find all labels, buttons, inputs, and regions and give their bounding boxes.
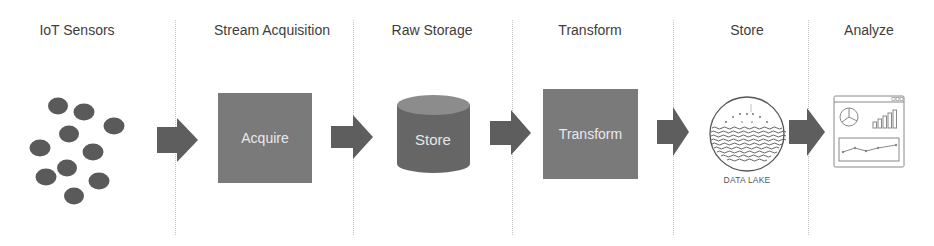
sensor-dots-icon bbox=[30, 98, 125, 205]
arrow-right-icon bbox=[157, 118, 198, 162]
acquire-label: Acquire bbox=[241, 130, 288, 146]
arrow-right-icon bbox=[789, 108, 825, 156]
data-lake-label: DATA LAKE bbox=[724, 175, 771, 185]
data-lake-icon bbox=[710, 97, 786, 171]
raw-store-label: Store bbox=[415, 131, 451, 148]
transform-node: Transform bbox=[543, 89, 638, 179]
arrow-right-icon bbox=[657, 107, 689, 156]
acquire-node: Acquire bbox=[218, 93, 312, 183]
transform-label: Transform bbox=[559, 126, 622, 142]
diagram-graphics bbox=[0, 0, 934, 246]
analytics-dashboard-icon bbox=[834, 96, 904, 167]
arrow-right-icon bbox=[490, 110, 531, 155]
arrow-right-icon bbox=[331, 115, 373, 159]
